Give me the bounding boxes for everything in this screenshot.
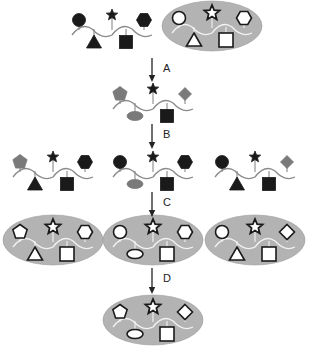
square-icon: [219, 33, 233, 47]
arrow-C: [149, 192, 155, 217]
diamond-icon: [281, 156, 294, 169]
circle-icon: [114, 156, 127, 169]
ellipse-icon: [127, 180, 143, 189]
circle-icon: [73, 14, 86, 27]
triangle-icon: [28, 177, 43, 190]
step-label-D: D: [163, 272, 171, 284]
pentagon-icon: [13, 155, 27, 169]
after-C-left-oval: [3, 215, 103, 265]
diamond-icon: [179, 88, 192, 101]
start-molecule-oval: [162, 1, 262, 51]
step-label-B: B: [163, 128, 170, 140]
after-B-right-molecule: [215, 151, 295, 191]
hexagon-icon: [237, 12, 252, 25]
arrow-B: [149, 124, 155, 149]
hexagon-icon: [78, 226, 93, 239]
diagram-canvas: [0, 0, 309, 351]
arrow-A: [149, 58, 155, 82]
square-icon: [161, 178, 174, 191]
step-label-C: C: [163, 196, 171, 208]
hexagon-icon: [137, 14, 152, 27]
square-icon: [61, 178, 74, 191]
after-C-center-oval: [103, 215, 203, 265]
circle-icon: [216, 226, 229, 239]
pentagon-icon: [113, 87, 127, 101]
circle-icon: [114, 226, 127, 239]
square-icon: [262, 247, 276, 261]
triangle-icon: [230, 177, 245, 190]
square-icon: [60, 247, 74, 261]
hexagon-icon: [178, 156, 193, 169]
after-B-left-molecule: [13, 151, 93, 191]
ellipse-icon: [127, 330, 143, 339]
after-A-molecule: [113, 83, 193, 123]
arrow-down-icon: [149, 75, 155, 82]
circle-icon: [173, 12, 186, 25]
arrow-D: [149, 268, 155, 294]
square-icon: [160, 247, 174, 261]
square-icon: [263, 178, 276, 191]
ellipse-icon: [127, 112, 143, 121]
after-B-center-molecule: [113, 151, 193, 191]
after-D-oval: [103, 295, 203, 345]
triangle-icon: [87, 35, 102, 48]
arrow-down-icon: [149, 287, 155, 294]
step-label-A: A: [163, 62, 170, 74]
circle-icon: [216, 156, 229, 169]
after-C-right-oval: [205, 215, 305, 265]
square-icon: [160, 327, 174, 341]
square-icon: [120, 36, 133, 49]
square-icon: [161, 110, 174, 123]
ellipse-icon: [127, 250, 143, 259]
hexagon-icon: [78, 156, 93, 169]
start-molecule-bare: [72, 9, 152, 49]
hexagon-icon: [178, 226, 193, 239]
arrow-down-icon: [149, 142, 155, 149]
